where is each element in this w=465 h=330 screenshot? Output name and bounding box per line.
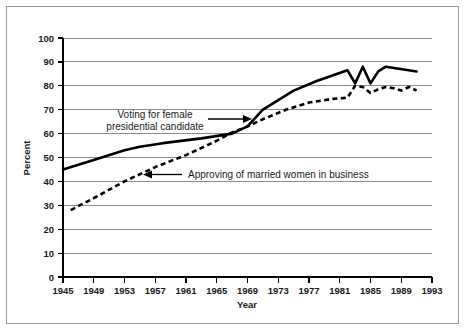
voting-annotation-line1: Voting for female	[117, 109, 192, 120]
line-chart-canvas: 100 90 80 70 60 50 40 30 20 10 0 Percent	[0, 0, 465, 330]
y-tick-label-30: 30	[43, 200, 54, 211]
approving-annotation: Approving of married women in business	[143, 169, 369, 180]
y-tick-label-70: 70	[43, 104, 54, 115]
x-tick-label-1985: 1985	[360, 285, 382, 296]
y-tick-label-20: 20	[43, 224, 54, 235]
x-tick-label-1961: 1961	[175, 285, 197, 296]
x-axis-tick-labels: 1945 1949 1953 1957 1961 1965 1969 1973 …	[52, 285, 442, 296]
y-tick-label-60: 60	[43, 128, 54, 139]
x-tick-label-1969: 1969	[237, 285, 258, 296]
x-tick-label-1965: 1965	[206, 285, 228, 296]
approving-annotation-line1: Approving of married women in business	[188, 169, 369, 180]
y-tick-label-90: 90	[43, 56, 54, 67]
chart-figure: 100 90 80 70 60 50 40 30 20 10 0 Percent	[0, 0, 465, 330]
y-axis-title: Percent	[21, 140, 32, 176]
voting-annotation-line2: presidential candidate	[106, 121, 204, 132]
x-tick-label-1977: 1977	[298, 285, 319, 296]
y-tick-label-80: 80	[43, 80, 54, 91]
x-tick-label-1973: 1973	[268, 285, 289, 296]
gridlines	[63, 38, 432, 253]
y-tick-label-50: 50	[43, 152, 54, 163]
x-tick-label-1949: 1949	[83, 285, 104, 296]
x-tick-label-1993: 1993	[421, 285, 442, 296]
x-tick-label-1945: 1945	[52, 285, 74, 296]
y-axis-tick-labels: 100 90 80 70 60 50 40 30 20 10 0	[38, 33, 54, 283]
y-tick-label-40: 40	[43, 176, 54, 187]
x-tick-label-1989: 1989	[391, 285, 412, 296]
y-tick-label-10: 10	[43, 248, 54, 259]
series-line-approving-married-women	[71, 86, 417, 210]
x-tick-label-1957: 1957	[145, 285, 166, 296]
x-tick-label-1953: 1953	[114, 285, 135, 296]
y-tick-label-100: 100	[38, 33, 54, 44]
x-axis-title: Year	[237, 299, 257, 310]
series-line-voting-female-president	[63, 67, 417, 170]
voting-annotation: Voting for female presidential candidate	[106, 109, 252, 132]
x-tick-label-1981: 1981	[329, 285, 351, 296]
y-tick-label-0: 0	[49, 272, 54, 283]
